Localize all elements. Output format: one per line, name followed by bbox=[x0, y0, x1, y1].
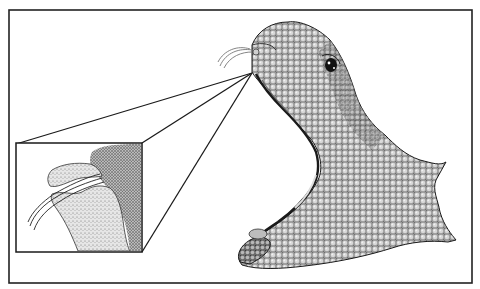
snake-illustration bbox=[0, 0, 480, 289]
illustration-canvas bbox=[0, 0, 480, 289]
fangs bbox=[218, 48, 252, 68]
magnified-fang-inset bbox=[16, 143, 142, 252]
snake-head bbox=[239, 22, 456, 269]
